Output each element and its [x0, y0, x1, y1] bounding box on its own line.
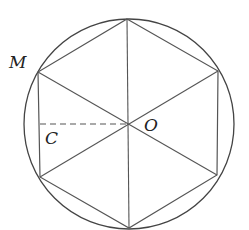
label-C: C — [45, 128, 58, 148]
label-M: M — [8, 52, 27, 72]
label-O: O — [144, 115, 158, 135]
hexagon-diagram: M O C — [0, 0, 249, 230]
